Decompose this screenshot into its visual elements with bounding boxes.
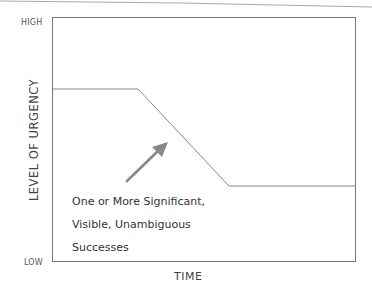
annotation-line-2: Visible, Unambiguous — [72, 213, 205, 236]
arrow-icon — [127, 142, 168, 181]
success-annotation: One or More Significant, Visible, Unambi… — [72, 190, 205, 259]
urgency-line — [53, 89, 356, 186]
annotation-line-1: One or More Significant, — [72, 190, 205, 213]
annotation-line-3: Successes — [72, 236, 205, 259]
